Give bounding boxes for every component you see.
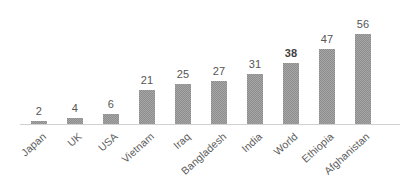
bar-group: 27 <box>201 0 237 124</box>
bar-group: 4 <box>57 0 93 124</box>
category-label: USA <box>96 130 120 154</box>
category-tick: Japan <box>21 124 57 187</box>
bar <box>103 114 119 124</box>
bar-group: 25 <box>165 0 201 124</box>
bar <box>283 63 299 124</box>
bar-value-label: 21 <box>129 74 165 86</box>
bar-value-label: 27 <box>201 65 237 77</box>
bar-group: 56 <box>345 0 381 124</box>
category-label: World <box>271 130 300 157</box>
category-label: India <box>239 130 264 154</box>
bar-value-label: 38 <box>273 47 309 59</box>
category-tick: Afghanistan <box>345 124 381 187</box>
bar-value-label: 31 <box>237 58 273 70</box>
bar-value-label: 25 <box>165 68 201 80</box>
category-tick: Vietnam <box>129 124 165 187</box>
category-axis: JapanUKUSAVietnamIraqBangladeshIndiaWorl… <box>0 124 417 187</box>
bar-value-label: 4 <box>57 102 93 114</box>
bar-chart: 24621252731384756 JapanUKUSAVietnamIraqB… <box>0 0 417 187</box>
bar-group: 6 <box>93 0 129 124</box>
bar-value-label: 6 <box>93 98 129 110</box>
bar-group: 31 <box>237 0 273 124</box>
bar-group: 2 <box>21 0 57 124</box>
category-tick: India <box>237 124 273 187</box>
bar <box>211 81 227 124</box>
plot-area: 24621252731384756 <box>0 0 417 124</box>
category-tick: Bangladesh <box>201 124 237 187</box>
category-label: Japan <box>18 130 48 158</box>
category-label: Iraq <box>170 130 192 151</box>
category-tick: UK <box>57 124 93 187</box>
category-label: UK <box>65 130 84 149</box>
bar-group: 47 <box>309 0 345 124</box>
bar-group: 21 <box>129 0 165 124</box>
bar-value-label: 2 <box>21 105 57 117</box>
bar <box>175 84 191 124</box>
bar-group: 38 <box>273 0 309 124</box>
bar-value-label: 56 <box>345 18 381 30</box>
bar <box>139 90 155 124</box>
bar <box>319 49 335 124</box>
bar-value-label: 47 <box>309 33 345 45</box>
bar <box>247 74 263 124</box>
bar <box>355 34 371 124</box>
